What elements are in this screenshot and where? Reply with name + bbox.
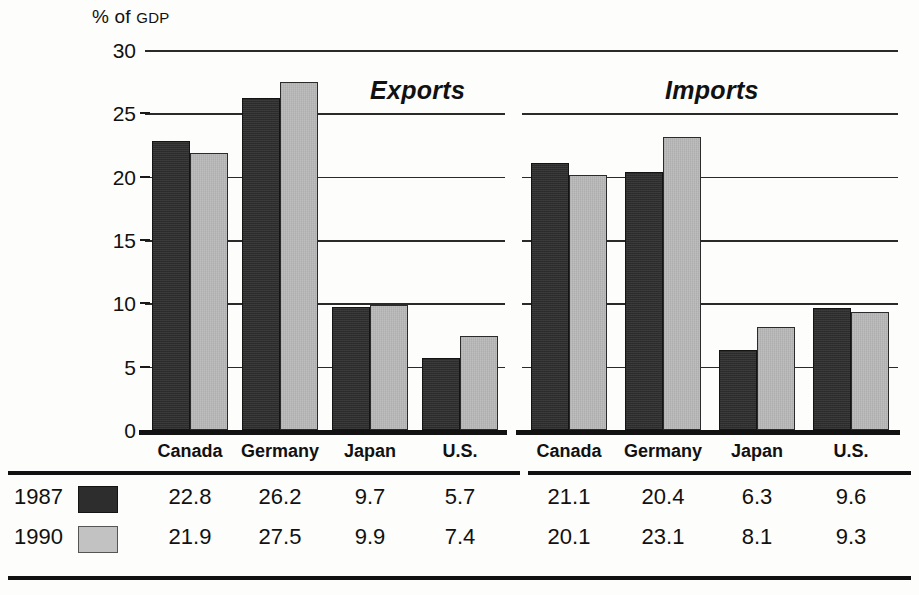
table-cell-1987-imports-germany: 20.4 [642, 484, 685, 510]
bar-imports-japan-1987 [719, 350, 757, 430]
bar-imports-canada-1987 [531, 163, 569, 430]
panel-title-exports: Exports [370, 76, 465, 105]
category-label-canada-panel-0: Canada [157, 441, 222, 462]
bar-imports-canada-1990 [569, 175, 607, 430]
y-axis-ticks: 051015202530 [88, 38, 136, 438]
y-tick-label-5: 5 [88, 356, 136, 377]
category-label-japan-panel-1: Japan [731, 441, 783, 462]
gridline-30 [145, 50, 898, 52]
table-cell-1990-exports-us: 7.4 [445, 524, 476, 550]
bar-imports-us-1990 [851, 312, 889, 430]
bar-exports-germany-1987 [242, 98, 280, 430]
plot-area: 051015202530 Exports Imports [0, 38, 919, 438]
category-label-japan-panel-0: Japan [344, 441, 396, 462]
bar-exports-japan-1990 [370, 305, 408, 430]
table-rule-top-left [8, 471, 520, 475]
y-tick-mark-25 [140, 112, 150, 114]
y-tick-label-20: 20 [88, 166, 136, 187]
category-label-row: CanadaGermanyJapanU.S.CanadaGermanyJapan… [0, 441, 919, 467]
gridline-25-panel-1 [522, 113, 898, 115]
bar-exports-canada-1990 [190, 153, 228, 430]
y-axis-title-main: % of [92, 6, 136, 27]
table-rule-bottom [8, 576, 911, 580]
bar-imports-japan-1990 [757, 327, 795, 430]
table-cell-1987-imports-us: 9.6 [836, 484, 867, 510]
y-axis-title-unit: GDP [136, 9, 169, 26]
category-label-germany-panel-1: Germany [624, 441, 702, 462]
baseline-panel-0 [139, 430, 507, 435]
category-label-germany-panel-0: Germany [241, 441, 319, 462]
panel-title-imports: Imports [665, 76, 759, 105]
table-cell-1990-imports-canada: 20.1 [548, 524, 591, 550]
bar-imports-germany-1990 [663, 137, 701, 430]
y-tick-label-25: 25 [88, 103, 136, 124]
gridline-25-panel-0 [145, 113, 505, 115]
table-cell-1987-exports-us: 5.7 [445, 484, 476, 510]
bar-exports-us-1990 [460, 336, 498, 430]
legend-year-1990: 1990 [14, 524, 63, 550]
legend-swatch-1990 [78, 526, 118, 553]
table-cell-1987-imports-japan: 6.3 [742, 484, 773, 510]
table-cell-1990-exports-canada: 21.9 [169, 524, 212, 550]
category-label-us-panel-0: U.S. [442, 441, 477, 462]
table-cell-1987-exports-canada: 22.8 [169, 484, 212, 510]
data-table: 198722.826.29.75.721.120.46.39.6199021.9… [0, 476, 919, 561]
y-tick-mark-10 [140, 302, 150, 304]
bar-exports-canada-1987 [152, 141, 190, 430]
y-tick-label-30: 30 [88, 40, 136, 61]
y-tick-label-15: 15 [88, 230, 136, 251]
y-tick-mark-20 [140, 176, 150, 178]
bar-imports-us-1987 [813, 308, 851, 430]
table-cell-1990-exports-japan: 9.9 [355, 524, 386, 550]
table-cell-1990-imports-japan: 8.1 [742, 524, 773, 550]
y-tick-label-10: 10 [88, 293, 136, 314]
table-cell-1990-imports-germany: 23.1 [642, 524, 685, 550]
baseline-panel-1 [516, 430, 900, 435]
legend-swatch-1987 [78, 486, 118, 513]
category-label-canada-panel-1: Canada [536, 441, 601, 462]
y-tick-mark-15 [140, 239, 150, 241]
table-cell-1987-imports-canada: 21.1 [548, 484, 591, 510]
table-cell-1987-exports-japan: 9.7 [355, 484, 386, 510]
table-cell-1990-exports-germany: 27.5 [259, 524, 302, 550]
bar-imports-germany-1987 [625, 172, 663, 430]
category-label-us-panel-1: U.S. [833, 441, 868, 462]
table-cell-1990-imports-us: 9.3 [836, 524, 867, 550]
bar-exports-us-1987 [422, 358, 460, 430]
bar-exports-japan-1987 [332, 307, 370, 430]
y-axis-title: % of GDP [92, 6, 169, 28]
legend-year-1987: 1987 [14, 484, 63, 510]
y-tick-mark-5 [140, 366, 150, 368]
table-cell-1987-exports-germany: 26.2 [259, 484, 302, 510]
y-tick-label-0: 0 [88, 420, 136, 441]
table-rule-top-right [528, 471, 911, 475]
bar-exports-germany-1990 [280, 82, 318, 430]
